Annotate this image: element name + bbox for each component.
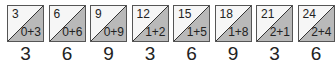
split-box: 18 1+8 xyxy=(215,5,252,42)
multiple-value: 12 xyxy=(137,8,150,20)
cell: 9 0+9 9 xyxy=(90,5,127,64)
digital-root: 9 xyxy=(228,44,239,64)
multiple-value: 21 xyxy=(261,8,274,20)
digit-sum: 1+8 xyxy=(228,26,248,38)
multiple-value: 24 xyxy=(303,8,316,20)
split-box: 12 1+2 xyxy=(132,5,169,42)
multiple-value: 15 xyxy=(178,8,191,20)
multiple-value: 9 xyxy=(95,8,102,20)
digit-sum: 1+5 xyxy=(187,26,207,38)
digital-root: 6 xyxy=(186,44,197,64)
cell: 12 1+2 3 xyxy=(132,5,169,64)
multiple-value: 6 xyxy=(54,8,61,20)
multiple-value: 3 xyxy=(12,8,19,20)
digital-root: 6 xyxy=(62,44,73,64)
split-box: 6 0+6 xyxy=(49,5,86,42)
digital-root: 3 xyxy=(20,44,31,64)
digit-sum: 0+6 xyxy=(62,26,82,38)
split-box: 24 2+4 xyxy=(298,5,335,42)
digital-root: 3 xyxy=(145,44,156,64)
digit-sum: 0+9 xyxy=(104,26,124,38)
multiple-value: 18 xyxy=(220,8,233,20)
digital-root: 9 xyxy=(103,44,114,64)
cell: 6 0+6 6 xyxy=(49,5,86,64)
digit-sum: 2+1 xyxy=(270,26,290,38)
multiples-of-three-diagram: 3 0+3 3 6 0+6 6 9 0+9 9 12 1+2 3 15 1+ xyxy=(7,5,335,64)
split-box: 15 1+5 xyxy=(173,5,210,42)
split-box: 3 0+3 xyxy=(7,5,44,42)
cell: 24 2+4 6 xyxy=(298,5,335,64)
split-box: 21 2+1 xyxy=(256,5,293,42)
digital-root: 6 xyxy=(311,44,322,64)
cell: 3 0+3 3 xyxy=(7,5,44,64)
cell: 18 1+8 9 xyxy=(215,5,252,64)
digit-sum: 1+2 xyxy=(145,26,165,38)
split-box: 9 0+9 xyxy=(90,5,127,42)
digit-sum: 0+3 xyxy=(21,26,41,38)
cell: 15 1+5 6 xyxy=(173,5,210,64)
cell: 21 2+1 3 xyxy=(256,5,293,64)
digit-sum: 2+4 xyxy=(311,26,331,38)
digital-root: 3 xyxy=(269,44,280,64)
